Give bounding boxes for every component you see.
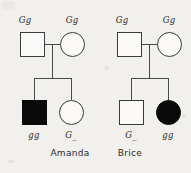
descent-line bbox=[149, 44, 150, 78]
person-symbol-father bbox=[20, 32, 45, 57]
family-name-label: Brice bbox=[105, 148, 155, 158]
descent-line bbox=[52, 44, 53, 78]
person-symbol-father bbox=[117, 32, 142, 57]
pedigree-family-amanda: Gg Gg gg G_ Amanda bbox=[0, 0, 95, 173]
genotype-label-mother: Gg bbox=[59, 15, 85, 25]
genotype-label-mother: Gg bbox=[156, 15, 182, 25]
genotype-label-father: Gg bbox=[109, 15, 135, 25]
sibling-drop-line-2 bbox=[168, 78, 169, 100]
family-name-label: Amanda bbox=[45, 148, 95, 158]
genotype-label-child-2: G_ bbox=[58, 130, 84, 140]
sibling-drop-line-1 bbox=[131, 78, 132, 100]
pedigree-family-brice: Gg Gg G_ gg Brice bbox=[95, 0, 190, 173]
person-symbol-mother bbox=[157, 32, 182, 57]
sibling-drop-line-2 bbox=[71, 78, 72, 100]
sibship-bar bbox=[34, 78, 71, 79]
genotype-label-father: Gg bbox=[12, 15, 38, 25]
person-symbol-child-2 bbox=[59, 100, 84, 125]
sibling-drop-line-1 bbox=[34, 78, 35, 100]
genotype-label-child-2: gg bbox=[155, 130, 181, 140]
person-symbol-child-1 bbox=[119, 100, 144, 125]
genotype-label-child-1: G_ bbox=[118, 130, 144, 140]
person-symbol-mother bbox=[60, 32, 85, 57]
person-symbol-child-2 bbox=[156, 100, 181, 125]
pedigree-figure: Gg Gg gg G_ Amanda Gg Gg G_ gg bbox=[0, 0, 191, 173]
sibship-bar bbox=[131, 78, 168, 79]
genotype-label-child-1: gg bbox=[21, 130, 47, 140]
person-symbol-child-1 bbox=[22, 100, 47, 125]
